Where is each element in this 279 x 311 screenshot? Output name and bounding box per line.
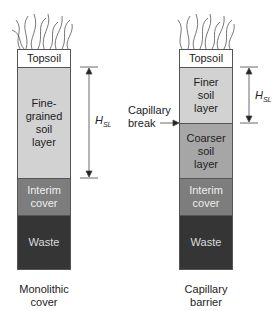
capillary-break-label: Capillary break [128,104,178,130]
monolithic-caption: Monolithic cover [4,283,84,309]
monolithic-fine-grained-layer: Fine- grained soil layer [17,67,71,179]
layer-label: Waste [191,236,222,249]
monolithic-interim-cover-layer: Interim cover [17,178,71,216]
capillary-caption: Capillary barrier [166,283,246,309]
layer-label: Interim cover [189,184,223,210]
capillary-coarser-soil-layer: Coarser soil layer [179,123,233,179]
layer-label: Finer soil layer [193,76,218,115]
capillary-waste-layer: Waste [179,215,233,270]
capillary-interim-cover-layer: Interim cover [179,178,233,216]
layer-label: Topsoil [189,52,223,65]
monolithic-topsoil-layer: Topsoil [17,49,71,68]
capillary-hsl-label: HSL [255,89,272,103]
layer-label: Waste [29,236,60,249]
monolithic-hsl-label: HSL [95,114,112,128]
layer-label: Coarser soil layer [186,132,225,171]
layer-label: Fine- grained soil layer [26,97,63,149]
layer-label: Interim cover [27,184,61,210]
capillary-finer-soil-layer: Finer soil layer [179,67,233,124]
capillary-topsoil-layer: Topsoil [179,49,233,68]
monolithic-waste-layer: Waste [17,215,71,270]
layer-label: Topsoil [27,52,61,65]
